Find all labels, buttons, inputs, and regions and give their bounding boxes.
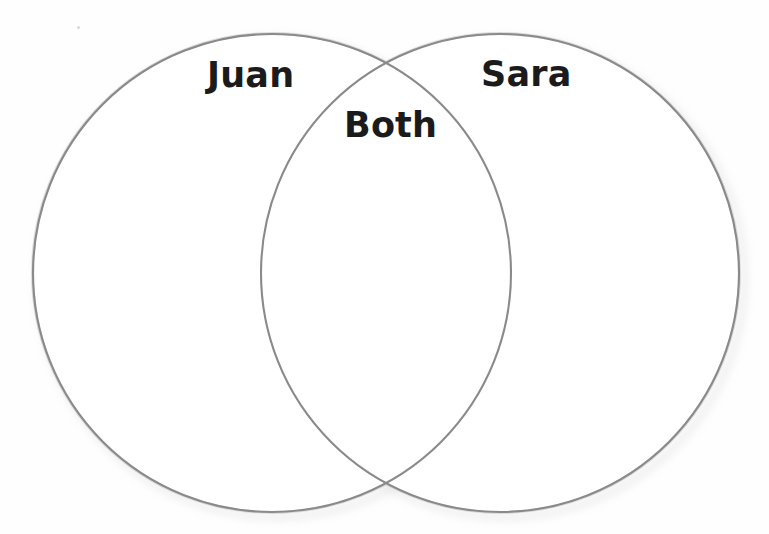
left-set-label-juan: Juan [207,55,294,95]
right-set-label-sara: Sara [481,54,572,94]
scan-speck-artifact [77,26,80,29]
intersection-label-both: Both [344,105,437,145]
venn-diagram-canvas: Juan Sara Both [0,0,769,534]
right-circle-fill [262,35,738,511]
venn-diagram-graphic [0,0,769,534]
